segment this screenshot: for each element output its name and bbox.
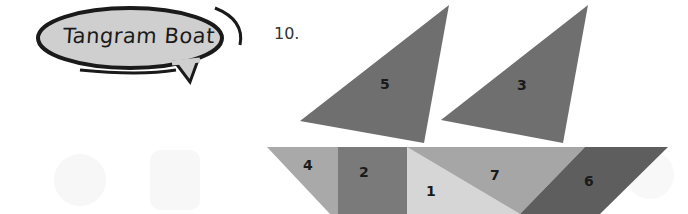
piece-1-label: 1 — [426, 183, 436, 199]
piece-2 — [338, 147, 407, 214]
piece-6-label: 6 — [584, 173, 594, 189]
piece-5-label: 5 — [380, 76, 390, 92]
piece-3-label: 3 — [517, 77, 527, 93]
piece-2-label: 2 — [359, 164, 369, 180]
tangram-boat-figure: 5 3 4 2 1 7 6 — [0, 0, 688, 214]
piece-5 — [300, 5, 449, 143]
piece-3 — [441, 5, 588, 143]
piece-4-label: 4 — [303, 157, 313, 173]
piece-7-label: 7 — [490, 167, 500, 183]
